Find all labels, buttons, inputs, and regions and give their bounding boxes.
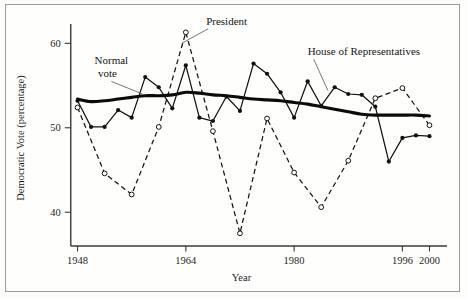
y-axis-title: Democratic Vote (percentage) [15,75,27,201]
y-tick-label: 50 [50,122,61,133]
house-data-point [224,94,228,98]
house-data-point [116,108,120,112]
x-tick-label: 1996 [392,255,413,266]
annotation-label: House of Representatives [308,45,420,57]
house-data-point [319,104,323,108]
house-series-line [78,64,430,162]
house-data-point [333,85,337,89]
chart-annotation: House of Representatives [308,45,420,90]
house-data-point [89,125,93,129]
house-data-point [103,125,107,129]
house-data-point [251,62,255,66]
y-tick-label: 40 [50,207,61,218]
house-data-point [400,136,404,140]
house-data-point [130,116,134,120]
house-data-point [157,85,161,89]
figure-container: 40506019481964198019962000YearDemocratic… [0,0,468,299]
x-tick-label: 1980 [284,255,305,266]
president-data-point [292,170,297,175]
president-data-point [319,205,324,210]
house-data-point [387,159,391,163]
annotation-label: President [206,15,247,27]
annotation-leader-line [111,81,142,94]
y-tick-label: 60 [50,38,61,49]
x-axis-title: Year [232,272,252,283]
house-data-point [211,119,215,123]
chart-annotation: Normalvote [95,54,143,94]
president-data-point [427,123,432,128]
president-data-point [129,192,134,197]
president-data-point [210,129,215,134]
president-data-point [238,231,243,236]
president-data-point [265,116,270,121]
house-data-point [197,116,201,120]
house-data-point [75,99,79,103]
house-data-point [170,106,174,110]
x-tick-label: 1948 [67,255,88,266]
president-data-point [75,105,80,110]
house-data-point [143,75,147,79]
house-data-point [427,134,431,138]
president-data-point [183,30,188,35]
house-data-point [265,72,269,76]
annotation-label: Normal [95,54,129,66]
president-data-point [373,96,378,101]
annotation-label: vote [98,67,117,79]
chart-annotation: President [182,15,247,44]
house-data-point [346,92,350,96]
chart-svg: 40506019481964198019962000YearDemocratic… [0,0,468,299]
house-data-point [184,63,188,67]
president-data-point [102,171,107,176]
house-data-point [292,116,296,120]
annotation-leader-line [314,59,328,90]
x-tick-label: 2000 [419,255,440,266]
president-data-point [400,86,405,91]
president-data-point [156,125,161,130]
house-data-point [278,90,282,94]
house-data-point [360,93,364,97]
x-tick-label: 1964 [175,255,197,266]
house-data-point [306,79,310,83]
house-data-point [373,105,377,109]
house-data-point [238,109,242,113]
house-data-point [414,133,418,137]
president-data-point [346,158,351,163]
